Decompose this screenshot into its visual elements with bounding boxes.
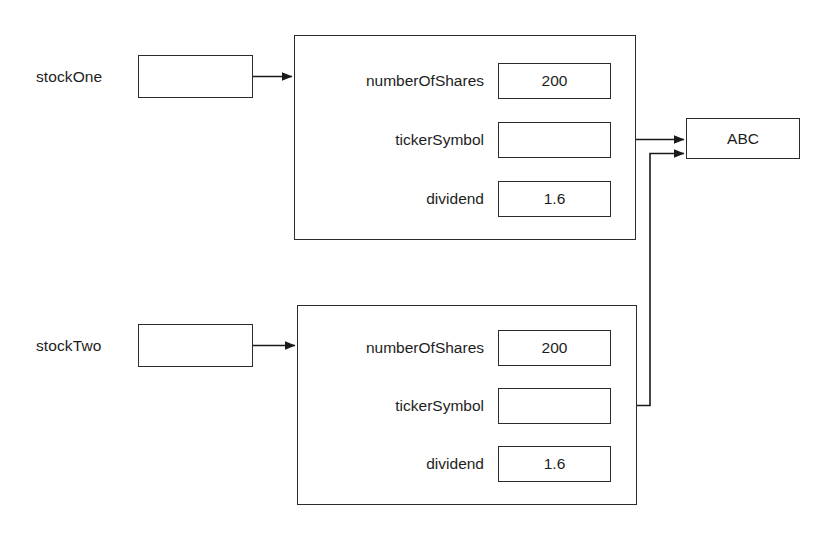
field-row-dividend-one: dividend 1.6	[321, 181, 611, 217]
field-value-numberofshares-two[interactable]: 200	[498, 330, 611, 366]
field-label-dividend-one: dividend	[426, 191, 498, 207]
field-row-tickersymbol-two: tickerSymbol	[321, 388, 611, 424]
field-value-tickersymbol-two[interactable]	[498, 388, 611, 424]
field-value-dividend-two[interactable]: 1.6	[498, 446, 611, 482]
field-value-tickersymbol-one[interactable]	[498, 122, 611, 158]
field-row-numberofshares-two: numberOfShares 200	[321, 330, 611, 366]
variable-label-stockone: stockOne	[36, 69, 102, 85]
variable-label-stocktwo: stockTwo	[36, 338, 101, 354]
field-row-numberofshares-one: numberOfShares 200	[321, 63, 611, 99]
reference-box-stockone[interactable]	[138, 55, 253, 98]
field-label-tickersymbol-one: tickerSymbol	[395, 132, 498, 148]
reference-box-stocktwo[interactable]	[138, 324, 253, 367]
string-object-abc[interactable]: ABC	[686, 118, 800, 159]
stock-object-one[interactable]: numberOfShares 200 tickerSymbol dividend…	[294, 35, 636, 240]
field-label-dividend-two: dividend	[426, 456, 498, 472]
field-value-numberofshares-one[interactable]: 200	[498, 63, 611, 99]
field-label-numberofshares-one: numberOfShares	[366, 73, 498, 89]
stock-object-two[interactable]: numberOfShares 200 tickerSymbol dividend…	[297, 305, 637, 505]
field-row-tickersymbol-one: tickerSymbol	[321, 122, 611, 158]
field-label-tickersymbol-two: tickerSymbol	[395, 398, 498, 414]
field-value-dividend-one[interactable]: 1.6	[498, 181, 611, 217]
field-row-dividend-two: dividend 1.6	[321, 446, 611, 482]
diagram-canvas: stockOne numberOfShares 200 tickerSymbol…	[0, 0, 836, 538]
field-label-numberofshares-two: numberOfShares	[366, 340, 498, 356]
